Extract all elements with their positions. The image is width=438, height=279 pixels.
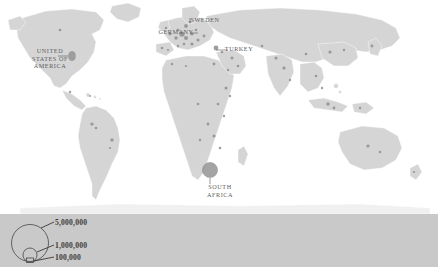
legend-value-5000000: 5,000,000 xyxy=(55,218,87,227)
map-label-united-states-of-america: UNITED STATES OF AMERICA xyxy=(24,47,76,70)
legend-symbol-group: 5,000,000 1,000,000 100,000 xyxy=(8,214,148,267)
map-label-sweden: SWEDEN xyxy=(182,16,228,24)
map-label-germany: GERMANY xyxy=(152,28,200,36)
legend-value-100000: 100,000 xyxy=(55,253,81,262)
legend-value-1000000: 1,000,000 xyxy=(55,241,87,250)
map-label-turkey: TURKEY xyxy=(218,45,260,53)
legend-band: 5,000,000 1,000,000 100,000 A country is… xyxy=(0,214,438,267)
world-map: .land{fill:#d5d5d5;stroke:#ffffff;stroke… xyxy=(0,0,438,214)
footer-strip xyxy=(0,267,438,279)
footer-cutoff-text xyxy=(104,267,434,275)
map-label-south-africa: SOUTH AFRICA xyxy=(196,183,244,198)
world-map-graphic: .land{fill:#d5d5d5;stroke:#ffffff;stroke… xyxy=(0,0,438,214)
